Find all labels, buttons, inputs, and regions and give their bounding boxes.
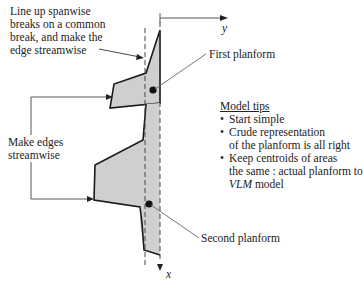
model-tips-title: Model tips: [220, 100, 363, 113]
line-up-annotation: Line up spanwise breaks on a common brea…: [10, 5, 106, 57]
vlm-text: VLM: [229, 178, 252, 190]
tip-item: Crude representation of the planform is …: [220, 126, 363, 152]
tip-item: Keep centroids of areas the same : actua…: [220, 152, 363, 191]
y-axis-arrowhead: [220, 15, 228, 21]
x-axis-label: x: [166, 268, 171, 281]
make-edges-bottom-arrowhead: [87, 196, 94, 202]
leader-first-planform: [155, 54, 206, 89]
x-axis-arrowhead: [157, 264, 163, 271]
second-planform-label: Second planform: [201, 232, 280, 245]
model-tips: Model tips Start simple Crude representa…: [220, 100, 363, 191]
model-tips-list: Start simple Crude representation of the…: [220, 113, 363, 191]
second-centroid-dot: [145, 200, 152, 207]
tip-item: Start simple: [220, 113, 363, 126]
make-edges-annotation: Make edges streamwise: [8, 136, 63, 162]
first-planform-shape: [110, 30, 160, 108]
line-up-arrowhead: [136, 54, 144, 60]
leader-make-edges-top: [31, 97, 108, 135]
first-centroid-dot: [149, 86, 156, 93]
second-planform-shape: [94, 103, 160, 255]
y-axis-label: y: [222, 22, 227, 35]
leader-make-edges-bottom: [31, 162, 89, 199]
first-planform-label: First planform: [209, 48, 275, 61]
